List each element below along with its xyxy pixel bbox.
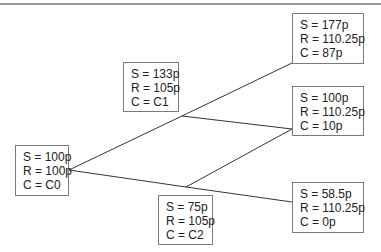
node-up-c: C = C1 [131,95,178,109]
node-updown-s: S = 100p [300,91,363,105]
node-upup-r: R = 110.25p [300,32,363,46]
node-up: S = 133p R = 105p C = C1 [123,62,179,112]
node-downdown-c: C = 0p [300,215,363,229]
node-root-s: S = 100p [23,150,68,164]
node-downdown-s: S = 58.5p [300,187,363,201]
node-upup-c: C = 87p [300,46,363,60]
node-updown: S = 100p R = 110.25p C = 10p [292,86,364,136]
node-root-c: C = C0 [23,178,68,192]
node-downdown: S = 58.5p R = 110.25p C = 0p [292,182,364,233]
edge-down-updown [186,129,292,187]
edge-up-upup [182,63,292,116]
node-root: S = 100p R = 100p C = C0 [15,145,69,196]
node-down: S = 75p R = 105p C = C2 [158,195,213,245]
node-up-s: S = 133p [131,67,178,81]
node-updown-c: C = 10p [300,119,363,133]
edge-root-down [69,170,186,187]
node-updown-r: R = 110.25p [300,105,363,119]
node-upup: S = 177p R = 110.25p C = 87p [292,13,364,64]
node-down-c: C = C2 [166,228,212,242]
node-down-s: S = 75p [166,200,212,214]
node-down-r: R = 105p [166,214,212,228]
node-downdown-r: R = 110.25p [300,201,363,215]
edge-root-up [69,116,182,170]
node-up-r: R = 105p [131,81,178,95]
node-root-r: R = 100p [23,164,68,178]
edge-up-updown [182,116,292,129]
node-upup-s: S = 177p [300,18,363,32]
